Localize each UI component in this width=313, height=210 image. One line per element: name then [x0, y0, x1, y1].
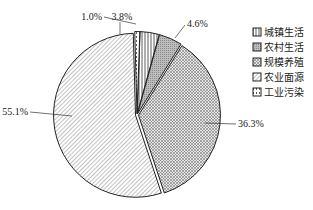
slice-label: 3.8% [112, 11, 133, 22]
legend-swatch [253, 73, 261, 81]
slice-label: 1.0% [81, 11, 102, 22]
legend-label: 农村生活 [264, 41, 304, 53]
pie-slices [54, 32, 221, 198]
legend: 城镇生活农村生活规模养殖农业面源工业污染 [253, 26, 304, 98]
legend-swatch [253, 43, 261, 51]
slice-label: 4.6% [187, 18, 208, 29]
slice-label: 36.3% [238, 118, 264, 129]
legend-swatch [253, 88, 261, 96]
slice-label: 55.1% [2, 106, 28, 117]
legend-label: 城镇生活 [264, 26, 304, 38]
legend-label: 规模养殖 [264, 56, 304, 68]
legend-swatch [253, 28, 261, 36]
legend-swatch [253, 58, 261, 66]
legend-label: 农业面源 [264, 71, 304, 83]
legend-label: 工业污染 [264, 86, 304, 98]
pie-chart: 3.8%4.6%36.3%55.1%1.0% 城镇生活农村生活规模养殖农业面源工… [0, 0, 313, 210]
